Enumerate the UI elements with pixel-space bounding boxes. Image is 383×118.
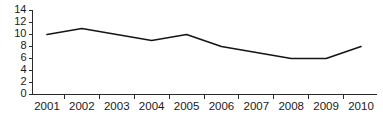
y-tick-label: 10 bbox=[14, 27, 26, 39]
x-tick-label: 2001 bbox=[34, 100, 60, 112]
x-tick-label: 2009 bbox=[313, 100, 339, 112]
chart-canvas: 02468101214 2001200220032004200520062007… bbox=[0, 0, 383, 118]
x-tick-label: 2005 bbox=[174, 100, 200, 112]
y-tick-label: 6 bbox=[20, 51, 26, 63]
x-tick-label: 2006 bbox=[209, 100, 235, 112]
x-tick-label: 2010 bbox=[348, 100, 374, 112]
y-tick-label: 12 bbox=[14, 15, 26, 27]
x-tick-label: 2002 bbox=[69, 100, 95, 112]
line-chart: 02468101214 2001200220032004200520062007… bbox=[0, 0, 383, 118]
y-tick-label: 14 bbox=[14, 3, 26, 15]
y-tick-label: 4 bbox=[20, 63, 26, 75]
x-tick-label: 2007 bbox=[244, 100, 270, 112]
x-tick-label: 2004 bbox=[139, 100, 165, 112]
y-tick-label: 2 bbox=[20, 75, 26, 87]
y-tick-label: 8 bbox=[20, 39, 26, 51]
y-tick-label: 0 bbox=[20, 87, 26, 99]
x-tick-label: 2003 bbox=[104, 100, 130, 112]
x-tick-label: 2008 bbox=[278, 100, 304, 112]
